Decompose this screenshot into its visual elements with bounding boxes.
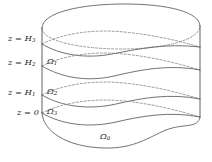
base-boundary-omega0 — [42, 113, 200, 148]
label-z-H1: z = H1 — [8, 88, 36, 98]
label-omega-0: Ω0 — [100, 132, 110, 142]
label-omega-2: Ω2 — [47, 87, 57, 97]
label-z-H2: z = H2 — [8, 58, 36, 68]
interface-z-H2-front-solid — [42, 66, 200, 79]
figure-canvas: z = H3 z = H2 z = H1 z = 0 Ω1 Ω2 Ω3 Ω0 — [0, 0, 212, 162]
interface-z-0-front-solid — [42, 113, 200, 125]
top-rim-front-solid — [42, 4, 200, 28]
label-z-0: z = 0 — [17, 108, 39, 118]
label-z-H3: z = H3 — [8, 34, 36, 44]
label-omega-3: Ω3 — [47, 107, 57, 117]
label-omega-1: Ω1 — [47, 57, 57, 67]
interface-z-H3-front-solid — [42, 44, 200, 56]
interface-z-H3-back-dashed — [42, 31, 200, 47]
